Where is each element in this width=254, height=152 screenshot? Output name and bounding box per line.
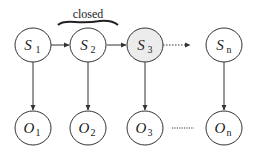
node-s2-symbol: S [80, 37, 88, 53]
node-on-subscript: n [227, 127, 232, 138]
node-on: O n [206, 111, 242, 145]
node-sn: S n [206, 28, 242, 62]
node-o2: O 2 [70, 111, 106, 145]
node-o2-symbol: O [79, 120, 90, 136]
closed-brace [58, 21, 118, 25]
node-o3-symbol: O [136, 120, 147, 136]
node-s1: S 1 [15, 28, 51, 62]
node-s3: S 3 [127, 28, 163, 62]
node-s3-symbol: S [137, 37, 145, 53]
node-s1-symbol: S [24, 37, 32, 53]
node-s1-subscript: 1 [36, 44, 41, 55]
node-o2-subscript: 2 [91, 127, 96, 138]
node-o3-subscript: 3 [148, 127, 153, 138]
node-s3-subscript: 3 [148, 44, 153, 55]
diagram-svg: closed S 1 S 2 S 3 S [0, 0, 254, 152]
node-sn-subscript: n [227, 44, 232, 55]
node-s2-subscript: 2 [91, 44, 96, 55]
node-o3: O 3 [127, 111, 163, 145]
closed-label: closed [73, 7, 104, 21]
node-s2: S 2 [70, 28, 106, 62]
node-on-symbol: O [215, 120, 226, 136]
node-o1-symbol: O [24, 120, 35, 136]
node-o1-subscript: 1 [36, 127, 41, 138]
node-sn-symbol: S [216, 37, 224, 53]
node-o1: O 1 [15, 111, 51, 145]
hmm-diagram: closed S 1 S 2 S 3 S [0, 0, 254, 152]
